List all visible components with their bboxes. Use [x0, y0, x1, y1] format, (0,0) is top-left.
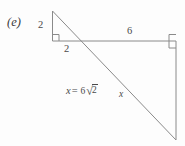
right-angle-marker-small [53, 35, 60, 42]
equation-equals-sign: = [72, 86, 78, 97]
label-horizontal-leg-2: 2 [64, 44, 69, 55]
radical-sign-icon: √ [86, 85, 93, 97]
part-label: (e) [7, 16, 21, 29]
right-angle-marker-large [169, 41, 176, 48]
equation-variable: x [66, 86, 71, 97]
radical-expression: √ 2 [86, 84, 97, 96]
geometry-figure: (e) 2 2 6 x x = 6 √ 2 [0, 0, 185, 146]
label-hypotenuse-x: x [119, 90, 123, 100]
hypotenuse-diagonal-line [53, 11, 177, 140]
right-angle-marker-large-top [169, 35, 176, 42]
figure-drawing [0, 0, 185, 146]
label-vertical-leg-2: 2 [38, 20, 43, 31]
label-top-leg-6: 6 [127, 26, 132, 37]
equation-coefficient: 6 [81, 87, 86, 97]
equation-x-equals: x = 6 √ 2 [66, 84, 98, 97]
